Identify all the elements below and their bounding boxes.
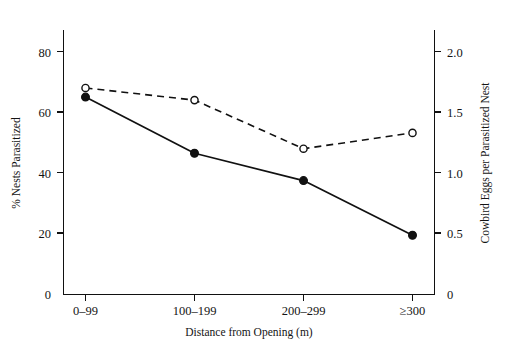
series-percent-nests-parasitized (82, 93, 417, 239)
series-line-dashed (86, 88, 413, 149)
data-point-filled-1 (191, 149, 199, 157)
series-cowbird-eggs (82, 84, 416, 152)
left-tick-label-0: 0 (45, 288, 51, 302)
right-axis-title: Cowbird Eggs per Parasitized Nest (479, 82, 492, 244)
right-tick-label-0: 0 (447, 288, 453, 302)
right-axis-ticks (435, 52, 442, 234)
right-tick-label-2-0: 2.0 (447, 46, 463, 60)
left-tick-label-40: 40 (39, 167, 52, 181)
x-axis-ticks (86, 295, 413, 302)
x-tick-label-3: ≥300 (400, 304, 426, 318)
chart-figure: 80 60 40 20 0 2.0 1.5 1.0 0.5 0 0–99 100… (0, 0, 505, 342)
left-tick-label-80: 80 (39, 46, 52, 60)
x-tick-label-1: 100–199 (173, 304, 217, 318)
data-point-open-1 (191, 97, 198, 104)
data-point-filled-2 (300, 177, 308, 185)
left-axis-title: % Nests Parasitized (10, 117, 22, 209)
x-tick-label-0: 0–99 (73, 304, 98, 318)
left-axis-ticks (57, 52, 64, 234)
right-tick-label-1-5: 1.5 (447, 106, 463, 120)
chart-plot-area: 80 60 40 20 0 2.0 1.5 1.0 0.5 0 0–99 100… (0, 0, 505, 342)
data-point-filled-0 (82, 93, 90, 101)
left-tick-label-20: 20 (39, 227, 52, 241)
series-line-solid (86, 97, 413, 235)
data-point-open-3 (409, 129, 416, 136)
data-point-open-0 (82, 84, 89, 91)
right-tick-label-0-5: 0.5 (447, 227, 463, 241)
left-tick-label-60: 60 (39, 106, 52, 120)
data-point-open-2 (300, 145, 307, 152)
x-tick-label-2: 200–299 (282, 304, 326, 318)
x-axis-title: Distance from Opening (m) (185, 326, 313, 339)
data-point-filled-3 (409, 231, 417, 239)
right-tick-label-1-0: 1.0 (447, 167, 463, 181)
